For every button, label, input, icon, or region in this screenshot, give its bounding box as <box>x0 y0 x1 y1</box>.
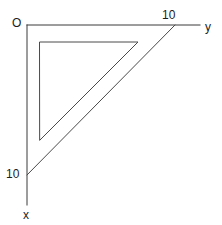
y-axis-label: y <box>205 21 211 33</box>
y-axis-tick-label-10: 10 <box>162 9 175 21</box>
x-axis-label: x <box>23 209 29 221</box>
outer-triangle-hypotenuse <box>27 25 175 175</box>
geometry-canvas <box>0 0 222 225</box>
origin-label: O <box>12 17 21 29</box>
inner-triangle <box>40 42 138 140</box>
geometry-diagram: O 10 10 y x <box>0 0 222 225</box>
x-axis-tick-label-10: 10 <box>6 168 19 180</box>
